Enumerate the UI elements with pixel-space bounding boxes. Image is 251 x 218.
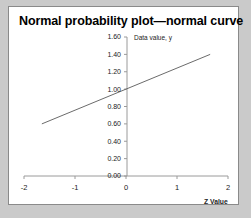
chart-screenshot: Normal probability plot—normal curve Dat… [0, 0, 251, 218]
y-tick-label: 0.00 [107, 172, 121, 179]
x-tick-label: -1 [72, 183, 79, 192]
plot-area: 0.000.200.400.600.801.001.201.401.60 -2-… [9, 7, 240, 206]
y-tick-label: 1.00 [107, 86, 121, 93]
x-axis-tick-labels: -2-1012 [21, 183, 230, 192]
y-tick-label: 0.20 [107, 155, 121, 162]
series-line [42, 54, 210, 124]
y-tick-label: 1.40 [107, 51, 121, 58]
y-tick-label: 0.60 [107, 120, 121, 127]
x-tick-label: 1 [175, 183, 179, 192]
y-tick-label: 1.60 [107, 33, 121, 40]
x-tick-label: 2 [226, 183, 230, 192]
y-axis-tick-labels: 0.000.200.400.600.801.001.201.401.60 [107, 33, 121, 179]
chart-panel: Normal probability plot—normal curve Dat… [8, 6, 239, 205]
data-series [42, 54, 210, 124]
y-tick-label: 1.20 [107, 68, 121, 75]
x-tick-label: -2 [21, 183, 28, 192]
y-tick-label: 0.40 [107, 138, 121, 145]
y-tick-label: 0.80 [107, 103, 121, 110]
x-tick-label: 0 [124, 183, 128, 192]
